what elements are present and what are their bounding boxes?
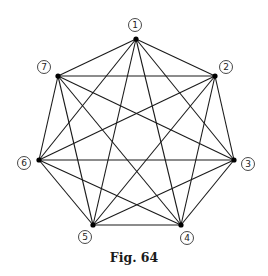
- vertex-number: 4: [184, 233, 190, 243]
- edge-1-2: [136, 39, 215, 76]
- vertex-label-7: 7: [38, 61, 51, 74]
- vertex-label-2: 2: [220, 61, 233, 74]
- vertex-label-1: 1: [129, 19, 142, 32]
- graph-nodes: [36, 36, 236, 227]
- vertex-2: [212, 73, 217, 78]
- vertex-4: [178, 222, 183, 227]
- edge-2-4: [181, 76, 215, 225]
- edge-1-5: [93, 39, 136, 225]
- vertex-label-5: 5: [79, 231, 92, 244]
- edge-3-5: [93, 160, 234, 225]
- figure-caption: Fig. 64: [110, 250, 159, 265]
- vertex-number: 1: [132, 20, 138, 30]
- vertex-label-4: 4: [181, 232, 194, 245]
- k7-graph-diagram: 1234567 Fig. 64: [0, 0, 268, 276]
- edge-2-5: [93, 76, 215, 225]
- vertex-1: [133, 36, 138, 41]
- vertex-5: [90, 222, 95, 227]
- edge-4-6: [39, 160, 181, 225]
- vertex-label-3: 3: [242, 158, 255, 171]
- vertex-number: 5: [82, 232, 88, 242]
- vertex-3: [231, 157, 236, 162]
- edge-2-6: [39, 76, 215, 160]
- vertex-number: 6: [21, 158, 27, 168]
- vertex-number: 2: [223, 62, 229, 72]
- vertex-label-6: 6: [18, 157, 31, 170]
- graph-edges: [39, 39, 234, 225]
- vertex-6: [36, 157, 41, 162]
- vertex-number: 3: [245, 159, 251, 169]
- edge-1-7: [58, 39, 136, 76]
- vertex-7: [55, 73, 60, 78]
- node-labels: 1234567: [18, 19, 255, 245]
- vertex-number: 7: [41, 62, 47, 72]
- edge-3-7: [58, 76, 234, 160]
